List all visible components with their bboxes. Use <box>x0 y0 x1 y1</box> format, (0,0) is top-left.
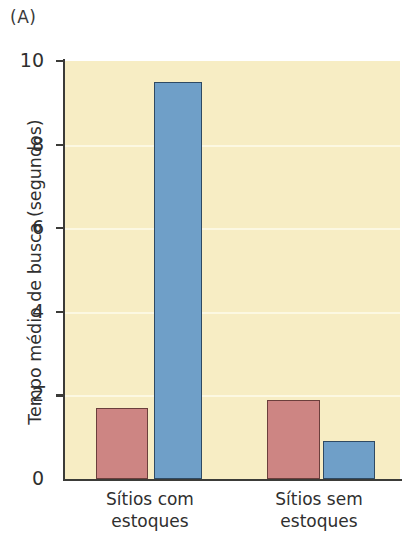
y-tick-2 <box>56 394 65 396</box>
x-category-line-1: Sítios sem <box>254 488 384 510</box>
x-category-label-sitios-sem-estoques: Sítios sem estoques <box>254 488 384 532</box>
bar-sitios-com-estoques-blue[interactable] <box>154 82 202 479</box>
x-category-label-sitios-com-estoques: Sítios com estoques <box>80 488 220 532</box>
bar-sitios-sem-estoques-red[interactable] <box>267 400 320 479</box>
gridline-4 <box>65 312 400 314</box>
x-category-line-2: estoques <box>254 510 384 532</box>
x-category-line-2: estoques <box>80 510 220 532</box>
x-axis-line <box>63 479 402 481</box>
y-axis-title: Tempo médio de busca (segundos) <box>25 62 45 482</box>
gridline-2 <box>65 395 400 397</box>
gridline-8 <box>65 145 400 147</box>
panel-label: (A) <box>10 7 36 27</box>
plot-area <box>65 61 400 479</box>
y-tick-4 <box>56 311 65 313</box>
y-tick-6 <box>56 227 65 229</box>
bar-sitios-com-estoques-red[interactable] <box>96 408 148 479</box>
gridline-6 <box>65 228 400 230</box>
y-axis-line <box>63 59 65 481</box>
figure-panel-a: (A) 10 8 6 4 2 0 Tempo médio de busca (s… <box>0 0 413 543</box>
x-category-line-1: Sítios com <box>80 488 220 510</box>
y-tick-8 <box>56 144 65 146</box>
y-tick-10 <box>56 60 65 62</box>
bar-sitios-sem-estoques-blue[interactable] <box>323 441 375 479</box>
